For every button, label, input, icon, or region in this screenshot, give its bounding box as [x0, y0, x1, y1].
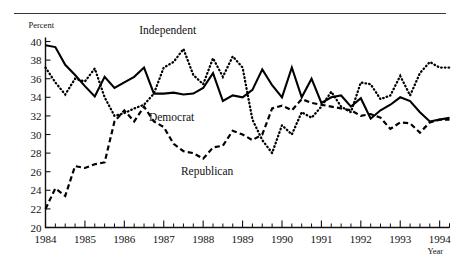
x-axis-title: Year — [428, 246, 444, 256]
y-tick-label: 26 — [31, 166, 43, 178]
x-tick-label: 1991 — [310, 233, 332, 245]
y-tick-label: 32 — [31, 110, 42, 122]
x-tick-label: 1994 — [429, 233, 452, 245]
x-tick-label: 1993 — [389, 233, 412, 245]
x-tick-label: 1985 — [74, 233, 97, 245]
series-label-independent: Independent — [139, 24, 197, 37]
series-label-democrat: Democrat — [149, 111, 195, 123]
y-tick-label: 30 — [31, 129, 43, 141]
x-tick-label: 1990 — [271, 233, 294, 245]
y-tick-label: 38 — [31, 54, 43, 66]
series-line-republican — [46, 99, 450, 209]
x-tick-label: 1992 — [350, 233, 372, 245]
axis-lines — [46, 38, 450, 228]
y-tick-label: 36 — [31, 73, 43, 85]
y-tick-label: 22 — [31, 203, 42, 215]
chart-svg: 2022242628303234363840198419851986198719… — [0, 0, 459, 267]
chart-figure: 2022242628303234363840198419851986198719… — [0, 0, 459, 267]
series-label-republican: Republican — [181, 165, 234, 178]
x-tick-label: 1988 — [192, 233, 215, 245]
y-axis-title: Percent — [29, 20, 55, 30]
y-tick-label: 28 — [31, 147, 43, 159]
y-tick-label: 34 — [31, 91, 43, 103]
y-tick-label: 40 — [31, 36, 43, 48]
series-line-democrat — [46, 45, 450, 121]
x-tick-label: 1987 — [153, 233, 176, 245]
y-tick-label: 24 — [31, 184, 43, 196]
x-tick-label: 1989 — [232, 233, 255, 245]
x-tick-label: 1984 — [35, 233, 58, 245]
x-tick-label: 1986 — [113, 233, 136, 245]
